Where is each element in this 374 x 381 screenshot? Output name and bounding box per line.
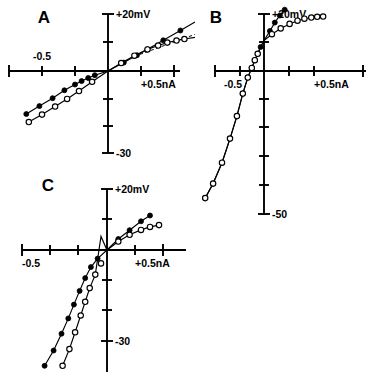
panel-b-y-bottom-label: -50 [272, 208, 287, 220]
data-point-open [76, 88, 81, 93]
panel-a: A +20mV -30 -0.5 +0.5nA [9, 8, 195, 159]
data-point-open [119, 60, 124, 65]
data-point-filled [95, 256, 100, 261]
data-point-filled [62, 88, 67, 93]
data-point-open [26, 119, 31, 124]
data-point-filled [79, 79, 84, 84]
data-point-open [269, 32, 274, 37]
data-point-open [89, 79, 94, 84]
data-point-open [78, 313, 83, 318]
data-point-open [320, 14, 325, 19]
data-point-open [210, 181, 215, 186]
data-point-open [155, 43, 160, 48]
data-point-open [287, 21, 292, 26]
data-point-open [309, 15, 314, 20]
data-point-filled [66, 316, 71, 321]
data-point-open [39, 112, 44, 117]
data-point-open [127, 232, 132, 237]
data-point-open [72, 330, 77, 335]
data-point-open [138, 227, 143, 232]
data-point-filled [77, 288, 82, 293]
data-point-open [227, 136, 232, 141]
panel-c-filled-curve [45, 216, 150, 366]
data-point-open [64, 96, 69, 101]
data-point-open [302, 16, 307, 21]
panel-a-y-top-label: +20mV [116, 8, 150, 20]
data-point-filled [92, 73, 97, 78]
data-point-filled [83, 276, 88, 281]
data-point-open [145, 47, 150, 52]
data-point-open [234, 113, 239, 118]
data-point-filled [178, 28, 183, 33]
data-point-filled [42, 363, 47, 368]
data-point-filled [37, 104, 42, 109]
data-point-filled [139, 219, 144, 224]
data-point-open [174, 38, 179, 43]
data-point-open [98, 261, 103, 266]
data-point-open [315, 14, 320, 19]
panel-a-label: A [38, 8, 50, 27]
panel-c-x-right-label: +0.5nA [135, 257, 170, 269]
data-point-filled [51, 348, 56, 353]
panel-a-x-left-label: -0.5 [33, 50, 51, 62]
data-point-open [60, 363, 65, 368]
panel-b-x-left-label: -0.5 [224, 78, 242, 90]
data-point-open [147, 224, 152, 229]
data-point-open [67, 346, 72, 351]
data-point-filled [282, 7, 287, 12]
data-point-open [116, 239, 121, 244]
data-point-open [182, 36, 187, 41]
data-point-open [83, 299, 88, 304]
iv-curve-figure: A +20mV -30 -0.5 +0.5nA [0, 0, 374, 381]
data-point-open [278, 26, 283, 31]
data-point-filled [59, 331, 64, 336]
data-point-open [156, 222, 161, 227]
panel-c-label: C [42, 176, 54, 195]
data-point-open [203, 195, 208, 200]
panel-b: B +20mV -50 -0.5 +0.5nA [203, 7, 367, 220]
data-point-open [295, 18, 300, 23]
data-point-open [245, 75, 250, 80]
data-point-open [219, 160, 224, 165]
panel-a-x-right-label: +0.5nA [141, 78, 176, 90]
panel-c: C +20mV -30 -0.5 +0.5nA [22, 176, 186, 372]
panel-c-y-bottom-label: -30 [115, 335, 130, 347]
data-point-open [52, 104, 57, 109]
data-point-filled [277, 13, 282, 18]
data-point-open [249, 65, 254, 70]
data-point-open [240, 91, 245, 96]
data-point-filled [71, 302, 76, 307]
data-point-open [93, 272, 98, 277]
data-point-filled [24, 112, 29, 117]
data-point-open [252, 58, 257, 63]
panel-b-x-right-label: +0.5nA [314, 78, 349, 90]
data-point-filled [258, 45, 263, 50]
panel-b-y-top-label: +20mV [272, 8, 306, 20]
panel-a-y-bottom-label: -30 [116, 147, 131, 159]
panel-b-label: B [210, 8, 222, 27]
data-point-filled [148, 213, 153, 218]
data-point-filled [73, 82, 78, 87]
panel-b-filled-curve [205, 10, 285, 198]
data-point-open [87, 285, 92, 290]
data-point-open [165, 40, 170, 45]
panel-c-y-top-label: +20mV [115, 183, 149, 195]
data-point-filled [88, 265, 93, 270]
data-point-filled [50, 96, 55, 101]
data-point-open [132, 53, 137, 58]
panel-c-x-left-label: -0.5 [22, 257, 40, 269]
data-point-open [255, 51, 260, 56]
data-point-filled [272, 20, 277, 25]
figure-container: A +20mV -30 -0.5 +0.5nA [0, 0, 374, 381]
